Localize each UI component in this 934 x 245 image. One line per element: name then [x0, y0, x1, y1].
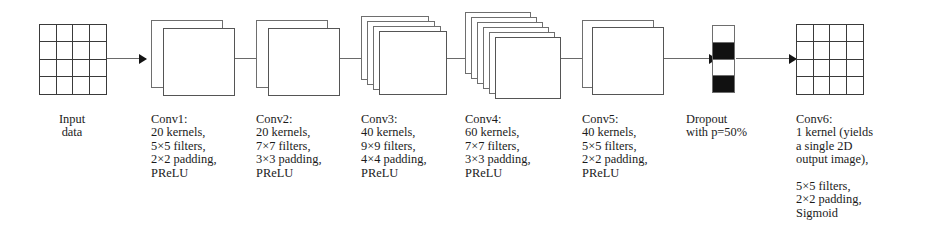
- grid-cell: [40, 60, 57, 77]
- caption-line: 20 kernels,: [256, 126, 360, 139]
- grid-cell: [90, 42, 107, 59]
- caption-line: 40 kernels,: [582, 126, 686, 139]
- conv3-feature-stack: [361, 16, 457, 98]
- caption-conv5: Conv5:40 kernels,5×5 filters,2×2 padding…: [582, 113, 686, 180]
- grid-cell: [847, 25, 864, 42]
- feature-plane: [592, 27, 664, 95]
- caption-line: 9×9 filters,: [361, 140, 465, 153]
- caption-line: output image),: [796, 153, 934, 166]
- conv4-feature-stack: [465, 12, 569, 102]
- dropout-strip: [712, 25, 735, 93]
- caption-line: PReLU: [361, 167, 465, 180]
- dropout-cell-inactive: [713, 60, 734, 77]
- caption-line: [796, 167, 934, 180]
- grid-cell: [797, 77, 814, 94]
- grid-cell: [57, 25, 74, 42]
- caption-line: 2×2 padding,: [582, 153, 686, 166]
- grid-cell: [830, 42, 847, 59]
- stage-conv2: Conv2:20 kernels,7×7 filters,3×3 padding…: [250, 0, 355, 245]
- grid-cell: [797, 25, 814, 42]
- grid-cell: [40, 77, 57, 94]
- feature-plane: [163, 28, 235, 96]
- input-data-grid: [39, 24, 107, 95]
- caption-line: 7×7 filters,: [256, 140, 360, 153]
- caption-conv6: Conv6:1 kernel (yieldsa single 2Doutput …: [796, 113, 934, 220]
- stage-conv3: Conv3:40 kernels,9×9 filters,4×4 padding…: [355, 0, 460, 245]
- caption-line: PReLU: [151, 167, 255, 180]
- feature-plane: [268, 28, 340, 96]
- grid-cell: [797, 42, 814, 59]
- caption-line: Conv4:: [465, 113, 569, 126]
- caption-line: 2×2 padding,: [151, 153, 255, 166]
- grid-cell: [847, 42, 864, 59]
- dropout-cell-active: [713, 76, 734, 92]
- cnn-architecture-diagram: Inputdata Conv1:20 kernels,5×5 filters,2…: [0, 0, 934, 245]
- grid-cell: [814, 60, 831, 77]
- caption-line: PReLU: [582, 167, 686, 180]
- caption-line: 7×7 filters,: [465, 140, 569, 153]
- grid-cell: [73, 77, 90, 94]
- caption-line: 5×5 filters,: [796, 180, 934, 193]
- conv5-feature-stack: [582, 20, 678, 96]
- stage-input: Inputdata: [0, 0, 145, 245]
- grid-cell: [90, 25, 107, 42]
- grid-cell: [797, 60, 814, 77]
- grid-cell: [57, 60, 74, 77]
- caption-line: 5×5 filters,: [151, 140, 255, 153]
- feature-plane: [495, 37, 561, 99]
- caption-line: 60 kernels,: [465, 126, 569, 139]
- caption-conv2: Conv2:20 kernels,7×7 filters,3×3 padding…: [256, 113, 360, 180]
- caption-line: Dropout: [686, 113, 794, 126]
- grid-cell: [40, 25, 57, 42]
- grid-cell: [830, 77, 847, 94]
- grid-cell: [40, 42, 57, 59]
- grid-cell: [830, 25, 847, 42]
- caption-dropout: Dropoutwith p=50%: [686, 113, 794, 140]
- grid-cell: [847, 60, 864, 77]
- grid-cell: [73, 42, 90, 59]
- caption-line: Input: [27, 113, 117, 126]
- grid-cell: [830, 60, 847, 77]
- caption-line: 40 kernels,: [361, 126, 465, 139]
- caption-line: Sigmoid: [796, 207, 934, 220]
- conv2-feature-stack: [256, 20, 352, 96]
- grid-cell: [90, 77, 107, 94]
- caption-conv1: Conv1:20 kernels,5×5 filters,2×2 padding…: [151, 113, 255, 180]
- output-image-grid: [796, 24, 864, 95]
- caption-input: Inputdata: [27, 113, 117, 140]
- grid-cell: [73, 25, 90, 42]
- grid-cell: [57, 42, 74, 59]
- caption-line: Conv1:: [151, 113, 255, 126]
- caption-line: a single 2D: [796, 140, 934, 153]
- caption-line: with p=50%: [686, 126, 794, 139]
- caption-line: Conv5:: [582, 113, 686, 126]
- caption-line: PReLU: [465, 167, 569, 180]
- caption-line: PReLU: [256, 167, 360, 180]
- caption-line: Conv6:: [796, 113, 934, 126]
- caption-line: 3×3 padding,: [256, 153, 360, 166]
- caption-line: Conv2:: [256, 113, 360, 126]
- stage-conv1: Conv1:20 kernels,5×5 filters,2×2 padding…: [145, 0, 250, 245]
- grid-cell: [73, 60, 90, 77]
- dropout-cell-inactive: [713, 26, 734, 43]
- caption-line: 1 kernel (yields: [796, 126, 934, 139]
- grid-cell: [814, 77, 831, 94]
- caption-line: 3×3 padding,: [465, 153, 569, 166]
- caption-line: data: [27, 126, 117, 139]
- stage-conv5: Conv5:40 kernels,5×5 filters,2×2 padding…: [570, 0, 680, 245]
- caption-line: 2×2 padding,: [796, 193, 934, 206]
- grid-cell: [814, 42, 831, 59]
- caption-line: 5×5 filters,: [582, 140, 686, 153]
- grid-cell: [90, 60, 107, 77]
- dropout-cell-active: [713, 43, 734, 60]
- grid-cell: [814, 25, 831, 42]
- stage-conv4: Conv4:60 kernels,7×7 filters,3×3 padding…: [460, 0, 570, 245]
- caption-conv3: Conv3:40 kernels,9×9 filters,4×4 padding…: [361, 113, 465, 180]
- caption-line: 20 kernels,: [151, 126, 255, 139]
- stage-dropout: Dropoutwith p=50%: [680, 0, 790, 245]
- grid-cell: [57, 77, 74, 94]
- conv1-feature-stack: [151, 20, 247, 96]
- stage-conv6: Conv6:1 kernel (yieldsa single 2Doutput …: [790, 0, 934, 245]
- caption-line: Conv3:: [361, 113, 465, 126]
- caption-line: 4×4 padding,: [361, 153, 465, 166]
